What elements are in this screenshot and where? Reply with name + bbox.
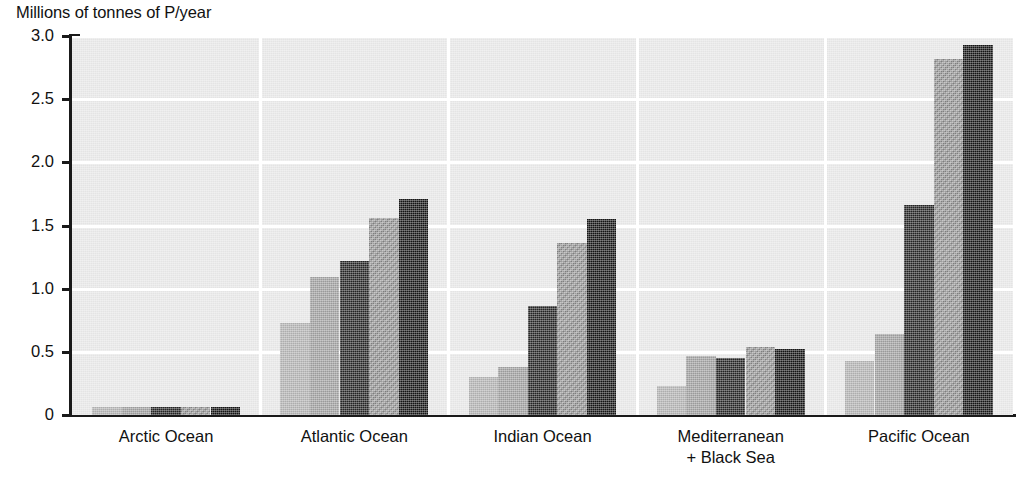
y-axis-tick-label: 0: [0, 406, 54, 423]
x-axis-category-label: Mediterranean + Black Sea: [637, 426, 825, 468]
bar: [310, 277, 340, 415]
bar: [657, 386, 687, 415]
bar: [875, 334, 905, 415]
y-axis-tick: [62, 161, 72, 164]
gridline: [72, 161, 1013, 164]
bar: [280, 323, 310, 415]
y-axis-tick: [62, 288, 72, 291]
bar: [498, 367, 528, 415]
group-separator: [636, 36, 639, 415]
y-axis-tick-label: 2.5: [0, 90, 54, 107]
bar: [775, 349, 805, 415]
gridline: [72, 98, 1013, 101]
group-separator: [824, 36, 827, 415]
y-axis-tick-label: 3.0: [0, 27, 54, 44]
bar: [746, 347, 776, 415]
y-axis-tick: [62, 414, 72, 417]
group-separator: [447, 36, 450, 415]
y-axis-tick: [62, 351, 72, 354]
bar: [557, 243, 587, 415]
bar: [151, 407, 181, 415]
x-axis-category-label: Atlantic Ocean: [260, 426, 448, 447]
bar: [369, 218, 399, 415]
bar: [528, 306, 558, 415]
y-axis-tick: [62, 98, 72, 101]
bar-chart: Millions of tonnes of P/year 00.51.01.52…: [0, 0, 1033, 483]
group-separator: [259, 36, 262, 415]
bar: [963, 45, 993, 415]
bar: [399, 199, 429, 415]
bar: [587, 219, 617, 415]
bar: [469, 377, 499, 415]
x-axis-category-label: Indian Ocean: [448, 426, 636, 447]
x-axis-category-label: Arctic Ocean: [72, 426, 260, 447]
bar: [686, 356, 716, 415]
bar: [92, 407, 122, 415]
y-axis-tick-label: 2.0: [0, 153, 54, 170]
bar: [904, 205, 934, 415]
bar: [845, 361, 875, 415]
bar: [122, 407, 152, 415]
y-axis-tick-label: 1.0: [0, 280, 54, 297]
plot-area-wrapper: [72, 36, 1013, 415]
gridline: [72, 36, 1013, 38]
x-axis-category-label: Pacific Ocean: [825, 426, 1013, 447]
gridline: [72, 288, 1013, 291]
bar: [340, 261, 370, 415]
x-axis-category-labels: Arctic OceanAtlantic OceanIndian OceanMe…: [72, 426, 1013, 483]
y-axis-tick: [62, 35, 72, 38]
y-axis-tick-label: 0.5: [0, 343, 54, 360]
bar: [211, 407, 241, 415]
gridline: [72, 225, 1013, 228]
bar: [934, 59, 964, 415]
y-axis-tick: [62, 225, 72, 228]
y-axis-tick-label: 1.5: [0, 217, 54, 234]
bar: [181, 407, 211, 415]
bar: [716, 358, 746, 415]
plot-area: [72, 36, 1013, 415]
y-axis-labels: 00.51.01.52.02.53.0: [0, 0, 58, 483]
